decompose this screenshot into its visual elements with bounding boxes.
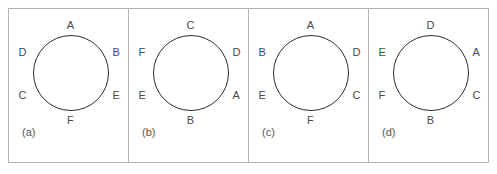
vertex-label-bottom: F bbox=[307, 115, 314, 126]
circle-group-d: D A C B F E bbox=[393, 35, 469, 111]
vertex-label-lower-left: C bbox=[19, 90, 27, 101]
vertex-label-lower-left: E bbox=[259, 90, 267, 101]
panel-caption: (b) bbox=[142, 127, 155, 138]
vertex-label-lower-right: E bbox=[113, 90, 121, 101]
vertex-label-lower-right: A bbox=[233, 90, 241, 101]
vertex-label-upper-right: D bbox=[353, 47, 361, 58]
vertex-label-lower-right: C bbox=[353, 90, 361, 101]
circle-group-a: A B E F C D bbox=[33, 35, 109, 111]
circle-outline bbox=[273, 35, 349, 111]
vertex-label-top: D bbox=[426, 20, 434, 31]
circle-outline bbox=[153, 35, 229, 111]
circle-group-b: C D A B E F bbox=[153, 35, 229, 111]
circle-group-c: A D C F E B bbox=[273, 35, 349, 111]
vertex-label-upper-left: D bbox=[19, 47, 27, 58]
vertex-label-lower-left: E bbox=[139, 90, 147, 101]
vertex-label-upper-right: A bbox=[473, 47, 481, 58]
circle-outline bbox=[33, 35, 109, 111]
vertex-label-bottom: B bbox=[427, 115, 435, 126]
vertex-label-bottom: F bbox=[67, 115, 74, 126]
panel-a: A B E F C D (a) bbox=[9, 9, 129, 162]
vertex-label-top: C bbox=[186, 20, 194, 31]
panel-caption: (a) bbox=[22, 127, 35, 138]
panel-caption: (c) bbox=[262, 127, 275, 138]
vertex-label-upper-right: D bbox=[233, 47, 241, 58]
vertex-label-upper-right: B bbox=[113, 47, 121, 58]
vertex-label-top: A bbox=[67, 20, 75, 31]
vertex-label-lower-left: F bbox=[379, 90, 386, 101]
vertex-label-upper-left: E bbox=[379, 47, 387, 58]
vertex-label-top: A bbox=[307, 20, 315, 31]
panel-b: C D A B E F (b) bbox=[129, 9, 249, 162]
panel-c: A D C F E B (c) bbox=[249, 9, 369, 162]
circle-outline bbox=[393, 35, 469, 111]
vertex-label-lower-right: C bbox=[473, 90, 481, 101]
vertex-label-upper-left: B bbox=[259, 47, 267, 58]
figure-container: A B E F C D (a) C D A B E F (b) A D C F … bbox=[8, 8, 489, 163]
panel-caption: (d) bbox=[382, 127, 395, 138]
vertex-label-bottom: B bbox=[187, 115, 195, 126]
vertex-label-upper-left: F bbox=[139, 47, 146, 58]
panel-d: D A C B F E (d) bbox=[369, 9, 488, 162]
